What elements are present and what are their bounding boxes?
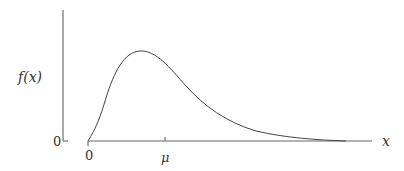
x-zero-label: 0 [85, 148, 93, 163]
density-chart: f(x) 0 0 μ x [0, 0, 404, 171]
x-axis-label: x [382, 133, 390, 149]
y-axis-label: f(x) [17, 69, 42, 85]
density-curve [88, 51, 346, 141]
y-zero-label: 0 [53, 134, 61, 149]
x-mu-label: μ [161, 150, 169, 165]
